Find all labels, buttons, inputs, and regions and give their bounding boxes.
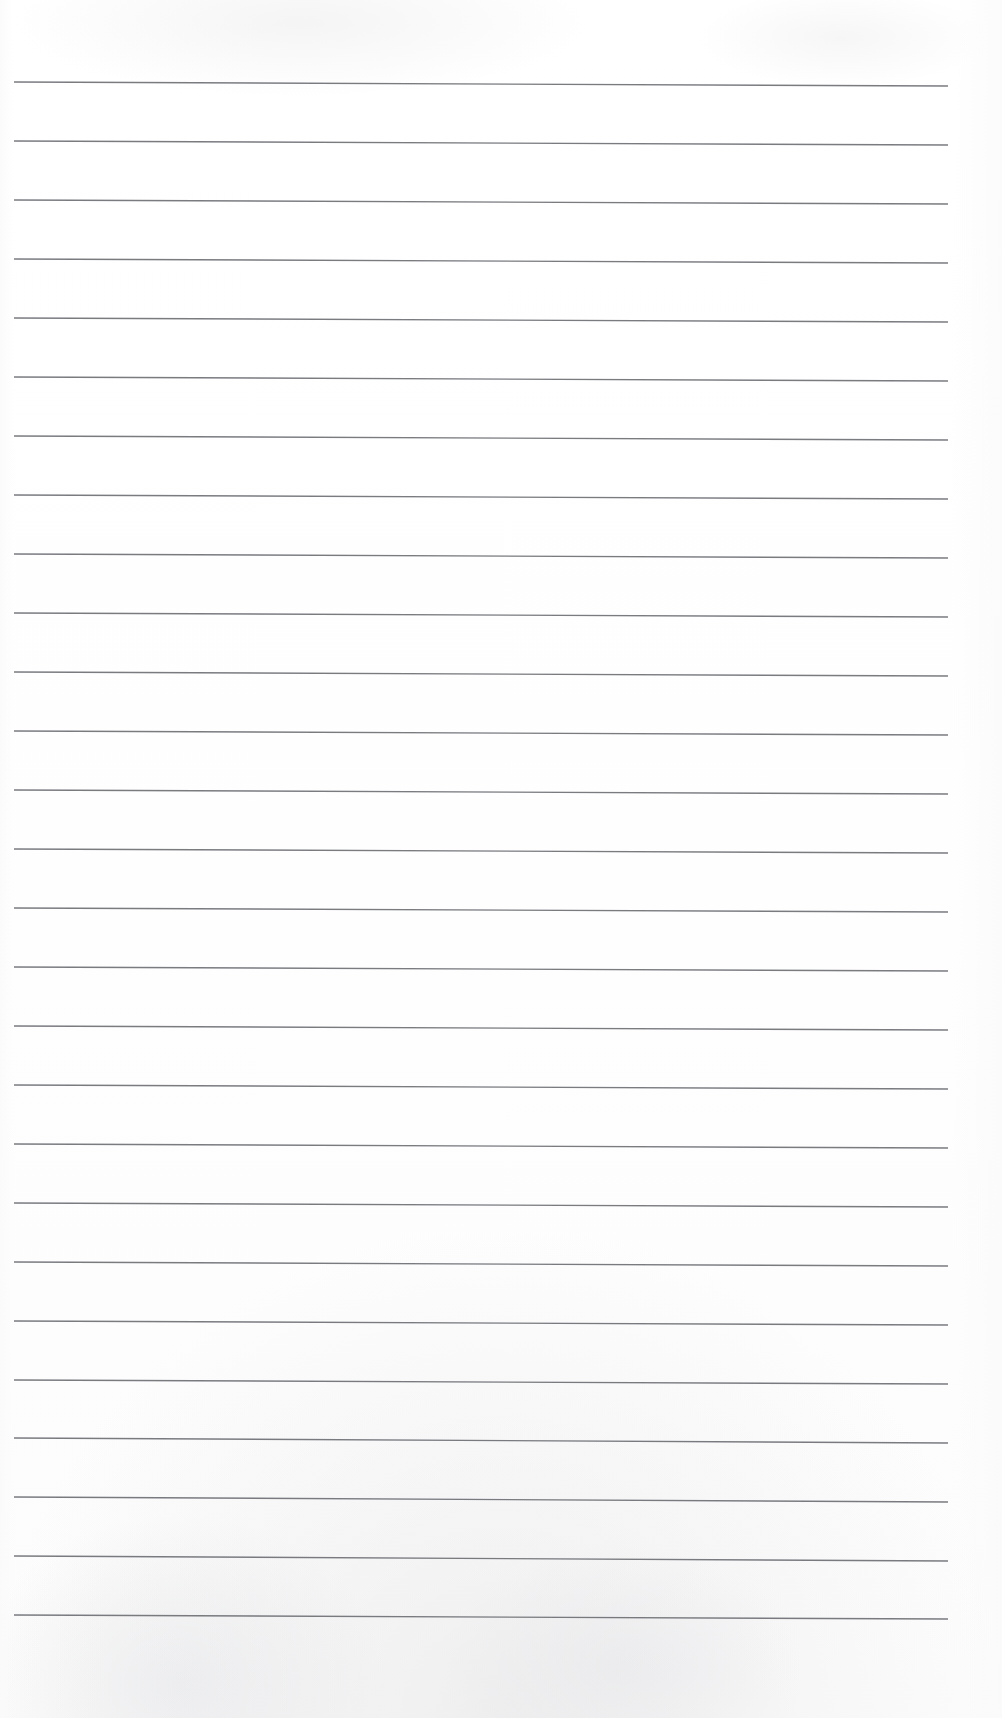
writing-area[interactable] [14,82,948,1619]
scanned-page [0,0,1002,1718]
